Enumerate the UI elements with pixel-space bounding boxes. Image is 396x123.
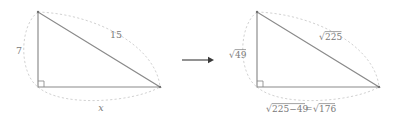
right-vertical-leg-label: √ 49 — [229, 50, 247, 60]
right-apex-vertex — [256, 11, 258, 13]
left-vertical-arc — [24, 12, 38, 87]
left-vertical-leg-label: 7 — [16, 45, 22, 56]
geometry-diagram: 7 15 x √ 49 — [0, 0, 396, 123]
right-triangle-group: √ 49 √ 225 √ 225−49 = √ 176 — [229, 11, 380, 114]
left-hypotenuse-label: 15 — [110, 29, 122, 40]
left-horizontal-arc — [38, 87, 160, 101]
right-hypotenuse-label: √ 225 — [319, 32, 342, 42]
transformation-arrow — [182, 57, 214, 64]
right-vertical-leg-radicand: 49 — [235, 50, 247, 60]
figure-root: 7 15 x √ 49 — [0, 0, 396, 123]
right-horizontal-radicand-2: 176 — [319, 104, 336, 114]
left-apex-vertex — [37, 11, 39, 13]
left-triangle-group: 7 15 x — [16, 11, 161, 113]
right-horizontal-radicand-1: 225−49 — [272, 104, 308, 114]
right-horizontal-leg-label: √ 225−49 = √ 176 — [266, 104, 336, 114]
right-right-vertex — [378, 86, 380, 88]
right-hypotenuse-radicand: 225 — [325, 32, 342, 42]
arrow-head-icon — [208, 57, 214, 64]
left-right-vertex — [159, 86, 161, 88]
horizontal-equals-sign: = — [305, 104, 313, 114]
right-horizontal-arc — [257, 87, 379, 101]
left-horizontal-leg-label: x — [98, 102, 104, 113]
